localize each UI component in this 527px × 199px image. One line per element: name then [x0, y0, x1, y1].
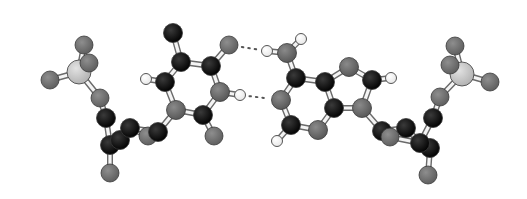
carbon-atom — [316, 73, 335, 92]
carbon-atom — [149, 123, 168, 142]
molecule-figure — [0, 0, 527, 199]
nitrogen-atom — [309, 121, 328, 140]
ball-and-stick-model — [0, 0, 527, 199]
oxygen-atom — [41, 71, 59, 89]
carbon-atom — [397, 119, 416, 138]
hydrogen-atom — [262, 46, 273, 57]
oxygen-atom — [381, 128, 399, 146]
carbon-atom — [325, 99, 344, 118]
hydrogen-bond — [242, 47, 258, 49]
oxygen-atom — [80, 54, 98, 72]
oxygen-atom — [446, 37, 464, 55]
nitrogen-atom — [167, 101, 186, 120]
carbon-atom — [156, 73, 175, 92]
nitrogen-atom — [211, 83, 230, 102]
carbon-atom — [282, 116, 301, 135]
nitrogen-atom — [278, 44, 297, 63]
carbon-atom — [172, 53, 191, 72]
nitrogen-atom — [272, 91, 291, 110]
nitrogen-atom — [340, 58, 359, 77]
carbon-atom — [424, 109, 443, 128]
hydrogen-atom — [235, 90, 246, 101]
carbon-atom — [363, 71, 382, 90]
hydrogen-atom — [296, 34, 307, 45]
oxygen-atom — [75, 36, 93, 54]
carbon-atom — [194, 106, 213, 125]
carbon-atom — [287, 69, 306, 88]
carbon-atom — [164, 24, 183, 43]
oxygen-atom — [91, 89, 109, 107]
carbon-atom — [202, 57, 221, 76]
hydrogen-atom — [141, 74, 152, 85]
nitrogen-atom — [353, 99, 372, 118]
oxygen-atom — [441, 56, 459, 74]
carbon-atom — [411, 134, 430, 153]
hydrogen-atom — [272, 136, 283, 147]
carbon-atom — [97, 109, 116, 128]
oxygen-atom — [220, 36, 238, 54]
oxygen-atom — [431, 88, 449, 106]
oxygen-atom — [419, 166, 437, 184]
carbon-atom — [121, 119, 140, 138]
oxygen-atom — [205, 127, 223, 145]
hydrogen-atom — [386, 73, 397, 84]
oxygen-atom — [101, 164, 119, 182]
oxygen-atom — [481, 73, 499, 91]
hydrogen-bond — [249, 96, 267, 98]
